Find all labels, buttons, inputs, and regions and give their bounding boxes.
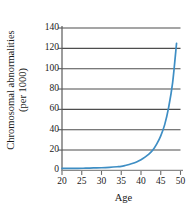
x-axis-title: Age (0, 192, 191, 203)
chart-figure: Chromosomal abnormalities (per 1000) 020… (0, 0, 191, 211)
x-axis-title-text: Age (115, 192, 133, 203)
x-tick-label: 50 (169, 177, 192, 187)
x-axis-tick-labels: 20253035404550 (0, 0, 191, 211)
